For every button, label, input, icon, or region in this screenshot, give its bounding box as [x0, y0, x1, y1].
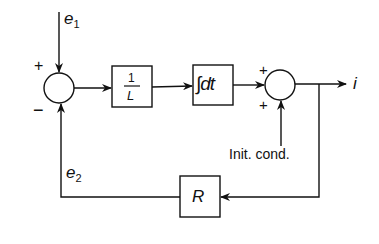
e2-label: e2 [66, 164, 82, 184]
inverse-L-numerator: 1 [128, 72, 135, 84]
sum2-plus-bottom-sign: + [259, 97, 268, 112]
e1-label: e1 [64, 10, 80, 30]
diagram-wiring [0, 0, 379, 244]
block-diagram: e1 + − 1 L ∫dt + + i Init. cond. e2 R [0, 0, 379, 244]
sum1-minus-sign: − [33, 101, 44, 119]
integrator-label: ∫dt [196, 74, 214, 93]
resistor-label: R [192, 188, 204, 205]
summing-junction-2 [265, 70, 295, 100]
sum1-plus-sign: + [34, 58, 43, 74]
output-current-label: i [353, 75, 357, 92]
inverse-L-denominator: L [127, 89, 134, 102]
sum2-plus-top-sign: + [259, 62, 268, 77]
initial-condition-label: Init. cond. [229, 147, 290, 161]
summing-junction-1 [44, 73, 74, 103]
